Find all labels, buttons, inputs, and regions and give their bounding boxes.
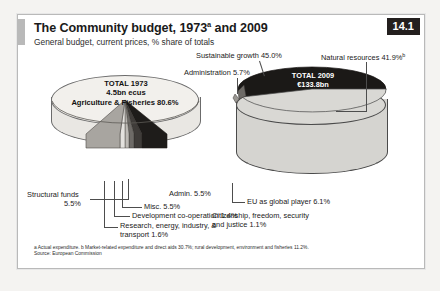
page-subtitle: General budget, current prices, % share … [34,37,214,47]
pie-2009-total-line2: €133.8bn [297,80,329,89]
label-citizenship-line2: and justice 1.1% [212,220,266,229]
leader-line-eu-global-stem [232,183,233,202]
pie-chart-1973: TOTAL 1973 4.5bn ecus Agriculture & Fish… [46,71,204,167]
label-research-line2: transport 1.6% [120,230,168,239]
pie-2009-total: TOTAL 2009 €133.8bn [270,71,356,89]
label-research-line1: Research, energy, industry, & [120,221,216,230]
leader-line-natural-resources [336,111,367,112]
label-eu-global-player: EU as global player 6.1% [247,197,330,206]
pie-1973-slice-structural [86,100,125,148]
footnote-source: Source: European Commission [34,251,412,258]
leader-line-research [104,227,118,228]
chart-plot-area: TOTAL 1973 4.5bn ecus Agriculture & Fish… [18,51,424,237]
leader-line-structural-stem [128,179,129,200]
leader-line-research-stem [104,181,105,228]
pie-1973-total-line1: TOTAL 1973 [104,79,147,88]
page-title-main: The Community budget, 1973 [34,21,207,35]
pie-1973-total: TOTAL 1973 4.5bn ecus [86,79,166,97]
label-natural-resources-footnote-marker: b [402,52,405,58]
leader-line-misc [122,207,142,208]
leader-line-development [114,216,130,217]
pie-1973-total-line2: 4.5bn ecus [106,88,145,97]
footnote-line-1: a Actual expenditure. b Market-related e… [34,245,412,252]
leader-line-development-stem [114,181,115,217]
label-natural-resources-text: Natural resources 41.9% [321,53,402,62]
leader-line-administration [237,78,238,94]
pie-2009-total-line1: TOTAL 2009 [292,71,334,80]
page-title-tail: and 2009 [211,21,268,35]
screenshot-canvas: The Community budget, 1973a and 2009 Gen… [0,0,440,291]
pie-2009-slice-citizenship [233,94,239,103]
label-structural-funds: Structural funds [27,190,79,199]
label-sustainable-growth: Sustainable growth 45.0% [196,51,282,60]
figure-number-badge: 14.1 [387,18,420,35]
page-title: The Community budget, 1973a and 2009 [34,20,268,35]
figure-card: The Community budget, 1973a and 2009 Gen… [17,14,425,269]
label-natural-resources: Natural resources 41.9%b [321,51,405,63]
label-admin: Admin. 5.5% [169,189,211,198]
label-administration: Administration 5.7% [184,68,250,77]
label-citizenship-line1: Citizenship, freedom, security [212,211,309,220]
leader-line-natural-resources-stem [366,62,367,111]
leader-line-misc-stem [122,181,123,208]
pie-chart-2009: TOTAL 2009 €133.8bn [226,63,404,191]
leader-line-eu-global [232,202,245,203]
footnotes: a Actual expenditure. b Market-related e… [34,245,412,258]
label-misc: Misc. 5.5% [144,202,180,211]
title-accent-bar [18,19,25,45]
label-structural-funds-pct: 5.5% [64,199,81,208]
pie-1973-agriculture-label: Agriculture & Fisheries 80.6% [54,98,196,107]
